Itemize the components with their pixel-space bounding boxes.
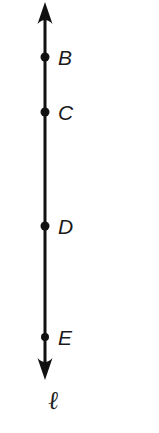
point-dot bbox=[41, 108, 50, 117]
point-label-c: C bbox=[58, 102, 73, 123]
line-diagram-canvas bbox=[0, 0, 159, 433]
point-label-d: D bbox=[58, 216, 73, 237]
point-dot bbox=[41, 222, 50, 231]
geometry-figure: BCDEℓ bbox=[0, 0, 159, 433]
line-name-label: ℓ bbox=[47, 388, 59, 414]
point-dot bbox=[41, 333, 49, 341]
point-label-b: B bbox=[58, 47, 72, 68]
point-label-e: E bbox=[58, 327, 72, 348]
point-dot bbox=[41, 53, 50, 62]
